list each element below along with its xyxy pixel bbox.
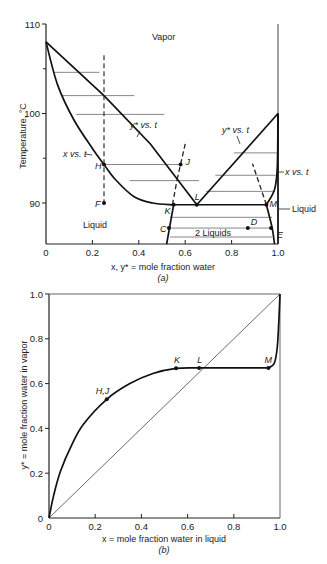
x-tick-label: 0.8 [225,247,238,258]
metastable-right-dashed [252,164,266,205]
point-k [174,366,178,370]
y-tick-label: 0.8 [30,333,43,344]
point-m [264,203,268,207]
x-tick-label: 0.2 [86,247,99,258]
region-vapor-label: Vapor [152,32,175,42]
curve-label-y-left: y* vs. t [129,120,158,130]
region-liquid-label: Liquid [83,220,107,230]
x-axis-title: x, y* = mole fraction water [111,262,215,272]
chart-b-xy-diagram: 00.20.40.60.81.000.20.40.60.81.0H,JKLMy*… [19,289,287,556]
point-f [102,201,106,205]
x-tick-label: 1.0 [271,247,284,258]
y-tick-label: 1.0 [30,289,43,300]
solubility-right-curve [266,205,274,244]
point-l [197,366,201,370]
x-tick-label: 0 [46,521,51,532]
curve-label-x-left: x vs. t [62,149,87,159]
point-label: K [165,206,172,216]
y-tick-label: 0.4 [30,423,43,434]
x-tick-label: 1.0 [273,521,286,532]
point-m [266,366,270,370]
y-axis-title: y* = mole fraction water in vapor [19,341,29,470]
point-label: H,J [96,386,110,396]
diagonal-line [49,294,280,518]
point-label: H [95,161,102,171]
region-two-liquids-label: 2 Liquids [195,228,232,238]
region-liquid-right-label: Liquid [292,204,316,214]
x-tick-label: 0.4 [135,521,148,532]
point-d [246,226,250,230]
point-label: J [185,157,191,167]
point-label: E [277,230,284,240]
y-tick-label: 0.6 [30,378,43,389]
y-axis-title: Temperature, °C [18,103,28,169]
point-j [179,163,183,167]
point-label: D [251,217,258,227]
caption-a: (a) [158,273,169,283]
caption-b: (b) [159,545,170,555]
y-tick-label: 0.2 [30,468,43,479]
point-label: F [95,199,101,209]
point-l [195,203,199,207]
point-c [167,226,171,230]
point-label: C [160,224,167,234]
x-tick-label: 0.6 [179,247,192,258]
x-tick-label: 0.6 [181,521,194,532]
point-label: L [195,192,200,202]
point-e [269,226,273,230]
curve-label-y-right: y* vs. t [221,125,250,135]
x-tick-label: 0.8 [227,521,240,532]
equilibrium-curve [49,368,199,518]
point-label: L [197,355,202,365]
point-hj [105,397,109,401]
point-label: K [174,355,181,365]
point-h [102,163,106,167]
x-tick-label: 0.4 [132,247,145,258]
metastable-left-dashed [177,144,185,180]
x-tick-label: 0 [43,247,48,258]
chart-a-temperature-composition: 9010011000.20.40.60.81.0HJFLKMCDEVaporLi… [18,19,316,284]
point-k [172,203,176,207]
point-label: M [269,199,277,209]
y-tick-label: 90 [29,198,40,209]
y-tick-label: 110 [25,19,40,30]
point-label: M [264,355,272,365]
y-tick-label: 0 [38,513,43,524]
phase-diagram-figure: 9010011000.20.40.60.81.0HJFLKMCDEVaporLi… [0,0,327,564]
curve-label-x-right: x vs. t [284,167,309,177]
x-axis-title: x = mole fraction water in liquid [102,534,226,544]
x-tick-label: 0.2 [89,521,102,532]
